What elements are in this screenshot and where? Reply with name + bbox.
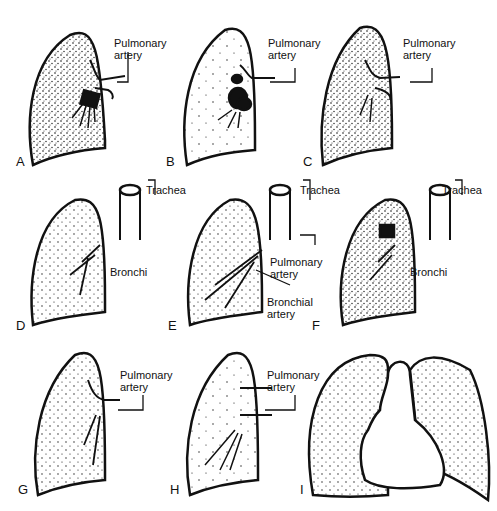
panel-letter-a: A [16, 155, 25, 169]
label-f-trachea: Trachea [442, 184, 482, 196]
label-e-bronchial-artery: artery [267, 308, 295, 320]
panel-letter-c: C [303, 155, 312, 169]
label-g-artery: artery [120, 381, 148, 393]
label-d-bronchi: Bronchi [110, 266, 147, 278]
label-e-artery: artery [270, 268, 298, 280]
lung-diagram-figure [0, 0, 497, 511]
label-e-trachea: Trachea [300, 184, 340, 196]
label-b-artery: artery [268, 49, 296, 61]
label-e-bronchial: Bronchial [267, 296, 313, 308]
label-c-artery: artery [403, 49, 431, 61]
panel-d-lung [32, 180, 155, 325]
panel-letter-e: E [168, 319, 177, 333]
panel-letter-g: G [18, 483, 28, 497]
label-f-bronchi: Bronchi [410, 266, 447, 278]
panel-i-heart-lungs [309, 355, 489, 500]
panel-letter-d: D [16, 319, 25, 333]
panel-letter-h: H [170, 483, 179, 497]
label-a-artery: artery [114, 49, 142, 61]
label-h-artery: artery [267, 381, 295, 393]
label-a-pulmonary: Pulmonary [114, 37, 167, 49]
panel-letter-f: F [312, 319, 320, 333]
label-e-pulmonary: Pulmonary [270, 256, 323, 268]
label-c-pulmonary: Pulmonary [403, 37, 456, 49]
panel-letter-b: B [166, 155, 175, 169]
panel-f-lung [341, 180, 462, 325]
label-b-pulmonary: Pulmonary [268, 37, 321, 49]
panel-letter-i: I [300, 483, 304, 497]
label-d-trachea: Trachea [146, 184, 186, 196]
label-h-pulmonary: Pulmonary [267, 369, 320, 381]
label-g-pulmonary: Pulmonary [120, 369, 173, 381]
